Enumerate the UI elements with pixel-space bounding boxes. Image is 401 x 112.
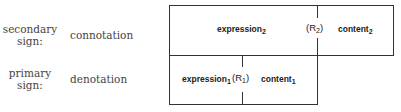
connotation-label: connotation xyxy=(70,29,133,41)
primary-relation-tick-top xyxy=(242,55,243,67)
primary-sign-label: primary sign: xyxy=(2,67,58,91)
top-box-top-border xyxy=(169,5,394,6)
secondary-sign-label: secondary sign: xyxy=(2,23,58,47)
bottom-box-bottom-border xyxy=(169,104,318,105)
expression-1: expression1 xyxy=(182,74,231,84)
content-1: content1 xyxy=(261,74,296,84)
secondary-label-line2: sign: xyxy=(2,35,58,47)
secondary-label-line1: secondary xyxy=(2,23,58,35)
content-2: content2 xyxy=(338,24,373,34)
top-box-right-border xyxy=(393,5,394,55)
secondary-relation-tick-bottom xyxy=(317,38,318,105)
expression-2: expression2 xyxy=(217,24,266,34)
denotation-label: denotation xyxy=(70,73,127,85)
secondary-relation-tick-top xyxy=(317,5,318,18)
primary-label-line1: primary xyxy=(2,67,58,79)
relation-2: (R2) xyxy=(306,22,323,33)
primary-relation-tick-bottom xyxy=(242,92,243,104)
primary-label-line2: sign: xyxy=(2,79,58,91)
middle-divider xyxy=(169,55,394,56)
relation-1: (R1) xyxy=(232,72,249,83)
